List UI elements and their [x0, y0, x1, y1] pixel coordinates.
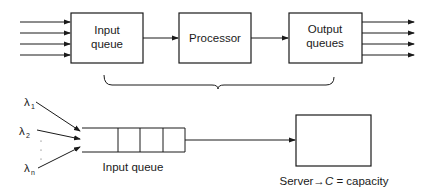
svg-text:2: 2 [26, 132, 30, 139]
input-queue-caption: Input queue [103, 161, 164, 173]
queueing-diagram: Input queue Processor Output queues λ 1 … [0, 0, 429, 196]
svg-text:n: n [31, 169, 35, 176]
grouping-brace [104, 75, 334, 89]
arrival-label-n: λ n [24, 162, 35, 176]
input-queue-block: Input queue [71, 13, 143, 63]
output-queues-label-line1: Output [308, 23, 343, 35]
svg-text:λ: λ [19, 125, 25, 137]
svg-text:λ: λ [24, 162, 30, 174]
svg-text:λ: λ [24, 96, 30, 108]
arrival-label-2: λ 2 [19, 125, 30, 139]
arrival-arrow-n [38, 147, 80, 168]
output-arrows [362, 22, 414, 55]
input-queue-label-line1: Input [94, 24, 120, 36]
ellipsis-dots [40, 140, 41, 159]
processor-block: Processor [179, 13, 251, 63]
output-queues-block: Output queues [289, 13, 362, 63]
arrival-label-1: λ 1 [24, 96, 35, 110]
input-arrows [20, 22, 70, 55]
server-block [296, 115, 371, 166]
input-queue-buffer [82, 128, 185, 152]
processor-label: Processor [189, 32, 241, 44]
server-caption: Server→C = capacity [280, 175, 389, 187]
input-queue-label-line2: queue [91, 38, 123, 50]
svg-text:1: 1 [31, 103, 35, 110]
arrival-arrow-2 [37, 130, 80, 139]
arrival-arrow-1 [36, 102, 80, 131]
output-queues-label-line2: queues [306, 37, 344, 49]
